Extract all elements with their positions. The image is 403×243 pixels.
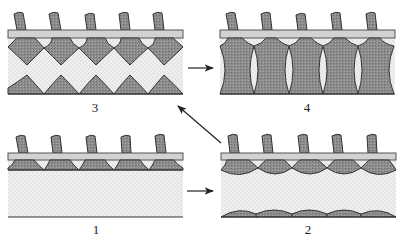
panel-2-lower-domes (221, 210, 396, 217)
panel-3-label: 3 (85, 100, 105, 116)
panel-1-projections (16, 134, 166, 153)
panel-3 (8, 12, 183, 94)
panel-4-bar (220, 30, 395, 38)
panel-1-bar (8, 153, 183, 160)
panel-4 (220, 12, 395, 94)
panel-4-columns (220, 38, 394, 94)
panel-2-projections (228, 134, 377, 153)
panel-1 (8, 134, 183, 217)
diagram-canvas (0, 0, 403, 243)
panel-4-projections (226, 12, 377, 30)
panel-3-projections (14, 12, 164, 30)
panel-2-bar (221, 153, 396, 160)
panel-2-upper-caps (221, 160, 396, 175)
panel-1-label: 1 (86, 222, 106, 238)
panel-2-label: 2 (298, 222, 318, 238)
panel-1-cups (8, 160, 183, 170)
panel-4-label: 4 (297, 100, 317, 116)
panel-3-bar (8, 30, 183, 38)
panel-2 (221, 134, 396, 217)
arrow-2-to-3 (178, 106, 221, 143)
